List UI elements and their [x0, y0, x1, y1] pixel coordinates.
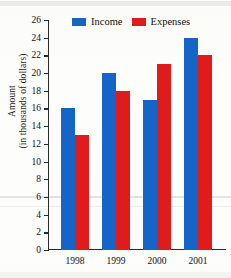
- y-tick-label: 22: [32, 50, 42, 60]
- y-tick-label: 0: [36, 245, 41, 255]
- y-tick-label: 6: [36, 192, 41, 202]
- y-tick-label: 26: [32, 15, 42, 25]
- y-tick-label: 10: [32, 157, 42, 167]
- y-tick-label: 24: [32, 33, 42, 43]
- y-tick-mark: [44, 197, 49, 198]
- y-tick-label: 20: [32, 68, 42, 78]
- y-tick-mark: [44, 215, 49, 216]
- bar-income-1998: [61, 108, 75, 250]
- y-tick-label: 14: [32, 121, 42, 131]
- bar-expenses-2001: [198, 55, 212, 250]
- x-tick-label-1998: 1998: [58, 256, 92, 266]
- y-axis-label-line1: Amount: [7, 31, 18, 171]
- y-tick-mark: [44, 38, 49, 39]
- y-tick-mark: [44, 108, 49, 109]
- bar-expenses-1998: [75, 135, 89, 250]
- bar-group-1998: 1998: [61, 20, 89, 250]
- y-tick-label: 18: [32, 86, 42, 96]
- bar-group-2001: 2001: [184, 20, 212, 250]
- y-tick-mark: [44, 232, 49, 233]
- bar-income-2000: [143, 100, 157, 250]
- y-tick-mark: [44, 126, 49, 127]
- y-tick-mark: [44, 73, 49, 74]
- bar-income-2001: [184, 38, 198, 250]
- x-tick-label-2000: 2000: [140, 256, 174, 266]
- y-tick-mark: [44, 20, 49, 21]
- y-tick-label: 8: [36, 174, 41, 184]
- bar-chart-figure: Income Expenses Amount (in thousands of …: [0, 0, 231, 278]
- x-tick-label-2001: 2001: [181, 256, 215, 266]
- y-tick-mark: [44, 144, 49, 145]
- bar-group-1999: 1999: [102, 20, 130, 250]
- y-tick-label: 12: [32, 139, 42, 149]
- y-tick-mark: [44, 55, 49, 56]
- y-tick-label: 16: [32, 103, 42, 113]
- y-tick-mark: [44, 250, 49, 251]
- x-tick-label-1999: 1999: [99, 256, 133, 266]
- y-axis-label-line2: (in thousands of dollars): [18, 31, 29, 171]
- y-tick-mark: [44, 162, 49, 163]
- bar-expenses-1999: [116, 91, 130, 250]
- bar-income-1999: [102, 73, 116, 250]
- y-axis-label: Amount (in thousands of dollars): [7, 31, 29, 171]
- y-tick-mark: [44, 91, 49, 92]
- y-tick-label: 2: [36, 227, 41, 237]
- y-tick-mark: [44, 179, 49, 180]
- y-tick-label: 4: [36, 210, 41, 220]
- chart-title-cropped: [30, 0, 210, 3]
- scan-artifact-bottom-edge: [0, 272, 231, 278]
- bar-expenses-2000: [157, 64, 171, 250]
- bar-group-2000: 2000: [143, 20, 171, 250]
- plot-area: 02468101214161820222426 1998199920002001: [48, 20, 226, 250]
